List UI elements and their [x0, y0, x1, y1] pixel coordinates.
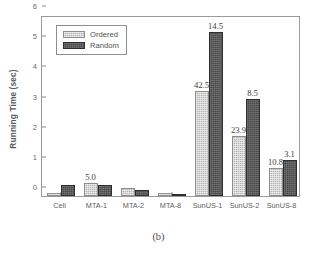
bar-ordered-sunus-8 — [269, 168, 283, 196]
bar-random-mta-1 — [98, 185, 112, 196]
y-axis-tick-label: 6 — [33, 2, 42, 11]
y-axis-tick-label: 0 — [33, 183, 42, 192]
bar-value-label: 10.8 — [268, 157, 283, 167]
x-axis-tick-label: MTA-1 — [86, 201, 107, 210]
figure-caption: (b) — [0, 231, 317, 242]
legend-label: Ordered — [90, 31, 118, 39]
bar-random-mta-8 — [172, 194, 186, 196]
bar-ordered-sunus-1 — [195, 91, 209, 196]
bar-ordered-cell — [47, 193, 61, 196]
x-axis-tick-label: SunUS-1 — [193, 201, 223, 210]
bar-random-sunus-1 — [209, 32, 223, 196]
bar-value-label: 14.5 — [208, 21, 223, 31]
x-axis-tick-label: SunUS-8 — [267, 201, 297, 210]
legend-item-random[interactable]: Random — [63, 42, 119, 50]
bar-ordered-sunus-2 — [232, 136, 246, 196]
x-axis-tick-label: MTA-2 — [123, 201, 144, 210]
bar-ordered-mta-8 — [158, 193, 172, 196]
x-axis-tick-label: SunUS-2 — [230, 201, 260, 210]
bar-value-label: 23.9 — [231, 125, 246, 135]
x-axis-tick-label: MTA-8 — [160, 201, 181, 210]
bar-random-mta-2 — [135, 190, 149, 196]
chart-legend: OrderedRandom — [56, 25, 127, 55]
plot-area: OrderedRandom 01234565.042.514.523.98.51… — [41, 16, 300, 197]
legend-swatch-random-icon — [63, 42, 85, 49]
x-axis-tick-label: Cell — [53, 201, 66, 210]
legend-item-ordered[interactable]: Ordered — [63, 31, 119, 39]
bar-value-label: 3.1 — [284, 149, 295, 159]
bar-ordered-mta-2 — [121, 188, 135, 196]
bar-random-cell — [61, 185, 75, 196]
bar-value-label: 42.5 — [194, 80, 209, 90]
legend-swatch-ordered-icon — [63, 31, 85, 38]
bar-random-sunus-8 — [283, 160, 297, 196]
y-axis-tick-label: 2 — [33, 122, 42, 131]
y-axis-title: Running Time (sec) — [8, 49, 18, 169]
y-axis-tick-label: 1 — [33, 152, 42, 161]
bar-value-label: 5.0 — [85, 172, 96, 182]
y-axis-tick-label: 4 — [33, 62, 42, 71]
bar-value-label: 8.5 — [247, 88, 258, 98]
bar-ordered-mta-1 — [84, 183, 98, 196]
y-axis-tick-label: 5 — [33, 32, 42, 41]
y-axis-tick-label: 3 — [33, 92, 42, 101]
figure-container: Running Time (sec) OrderedRandom 0123456… — [0, 0, 317, 259]
bar-random-sunus-2 — [246, 99, 260, 196]
legend-label: Random — [90, 42, 119, 50]
